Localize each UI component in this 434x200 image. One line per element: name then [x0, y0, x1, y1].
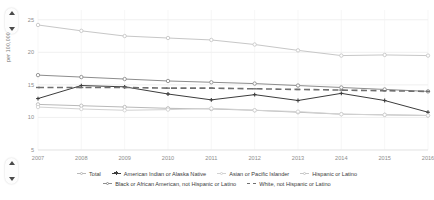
legend-label: Black or African American, not Hispanic …	[115, 181, 236, 187]
legend-row-2: Black or African American, not Hispanic …	[103, 180, 330, 187]
data-point	[426, 54, 429, 57]
data-point	[36, 23, 39, 26]
data-point	[209, 98, 213, 102]
x-tick-label: 2014	[335, 155, 347, 161]
line-chart: 2520151052007200820092010201120122013201…	[0, 0, 434, 168]
data-point	[340, 112, 343, 115]
legend-label: American Indian or Alaska Native	[124, 171, 206, 177]
data-point	[296, 99, 300, 103]
x-tick-label: 2012	[248, 155, 260, 161]
x-tick-label: 2013	[292, 155, 304, 161]
legend-item[interactable]: Total	[77, 170, 101, 177]
legend-marker-icon	[103, 180, 112, 187]
legend-label: White, not Hispanic or Latino	[259, 181, 331, 187]
series-asian-or-pacific-islander	[36, 105, 429, 117]
y-tick-label: 15	[28, 82, 34, 88]
data-point	[80, 75, 83, 78]
y-tick-label: 10	[28, 114, 34, 120]
data-point	[36, 97, 40, 101]
data-point	[36, 73, 39, 76]
data-point	[80, 107, 83, 110]
data-point	[296, 84, 299, 87]
legend-label: Total	[89, 171, 101, 177]
legend-item[interactable]: Black or African American, not Hispanic …	[103, 180, 236, 187]
legend-row-1: TotalAmerican Indian or Alaska NativeAsi…	[77, 170, 357, 177]
data-point	[296, 49, 299, 52]
series-line	[38, 25, 428, 56]
data-point	[210, 107, 213, 110]
data-point	[253, 93, 257, 97]
data-point	[383, 99, 387, 103]
data-point	[210, 38, 213, 41]
data-point	[36, 105, 39, 108]
x-tick-label: 2007	[32, 155, 44, 161]
data-point	[426, 114, 429, 117]
data-point	[166, 36, 169, 39]
x-tick-label: 2011	[205, 155, 217, 161]
series-line	[38, 87, 428, 91]
data-point	[253, 43, 256, 46]
legend-marker-icon	[112, 170, 121, 177]
legend-item[interactable]: Asian or Pacific Islander	[217, 170, 289, 177]
chart-plot-area: 2520151052007200820092010201120122013201…	[0, 0, 434, 168]
legend-label: Asian or Pacific Islander	[229, 171, 289, 177]
data-point	[123, 77, 126, 80]
data-point	[383, 113, 386, 116]
data-point	[80, 29, 83, 32]
series-line	[38, 104, 428, 115]
x-tick-label: 2008	[75, 155, 87, 161]
legend-marker-icon	[247, 180, 256, 187]
data-point	[383, 53, 386, 56]
data-point	[123, 109, 126, 112]
data-point	[253, 109, 256, 112]
data-point	[253, 82, 256, 85]
data-point	[340, 86, 343, 89]
data-point	[296, 110, 299, 113]
y-tick-label: 25	[28, 17, 34, 23]
x-tick-label: 2016	[422, 155, 434, 161]
legend-marker-icon	[300, 170, 309, 177]
legend-item[interactable]: Hispanic or Latino	[300, 170, 357, 177]
legend-marker-icon	[77, 170, 86, 177]
legend-item[interactable]: American Indian or Alaska Native	[112, 170, 206, 177]
data-point	[339, 91, 343, 95]
y-tick-label: 20	[28, 49, 34, 55]
x-tick-label: 2015	[378, 155, 390, 161]
series-line	[38, 107, 428, 115]
data-point	[123, 34, 126, 37]
legend-marker-icon	[217, 170, 226, 177]
x-tick-label: 2009	[118, 155, 130, 161]
data-point	[340, 54, 343, 57]
legend-item[interactable]: White, not Hispanic or Latino	[247, 180, 331, 187]
x-tick-label: 2010	[162, 155, 174, 161]
series-white-not-hispanic-or-latino	[36, 87, 430, 91]
data-point	[210, 81, 213, 84]
data-point	[166, 92, 170, 96]
data-point	[166, 79, 169, 82]
chart-screenshot: 2520151052007200820092010201120122013201…	[0, 0, 434, 200]
chart-legend: TotalAmerican Indian or Alaska NativeAsi…	[0, 170, 434, 187]
y-axis-label: per 100,000	[5, 32, 11, 62]
legend-label: Hispanic or Latino	[312, 171, 357, 177]
data-point	[166, 108, 169, 111]
y-tick-label: 5	[31, 147, 34, 153]
series-line	[38, 86, 428, 113]
